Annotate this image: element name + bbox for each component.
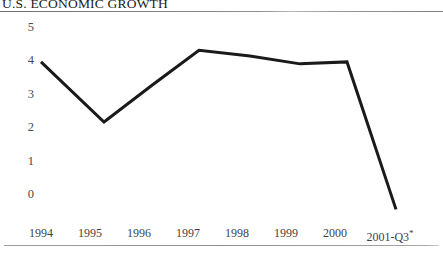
top-divider: [0, 11, 443, 12]
line-chart-svg: [0, 14, 443, 228]
bottom-divider: [4, 245, 439, 246]
y-axis-tick-2: 2: [12, 121, 34, 133]
x-axis-tick-2001-q3: 2001-Q3*: [360, 227, 420, 243]
data-series-line: [41, 50, 396, 209]
x-axis-tick-2000: 2000: [305, 227, 365, 239]
plot-area: [0, 14, 443, 228]
y-axis-tick-5: 5: [12, 21, 34, 33]
x-axis-tick-2001-q3-label: 2001-Q3: [366, 230, 409, 244]
chart-figure: U.S. ECONOMIC GROWTH 5 4 3 2 1 0 1994 19…: [0, 0, 443, 262]
y-axis-tick-0: 0: [12, 188, 34, 200]
y-axis-tick-4: 4: [12, 54, 34, 66]
y-axis-tick-3: 3: [12, 88, 34, 100]
footnote-asterisk: *: [409, 228, 414, 238]
y-axis-tick-1: 1: [12, 155, 34, 167]
